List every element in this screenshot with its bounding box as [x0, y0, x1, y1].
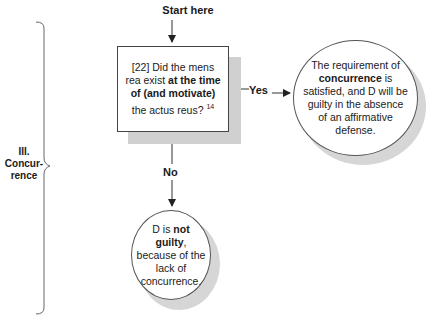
footnote-ref: 14	[206, 103, 214, 110]
yes-label: Yes	[249, 84, 268, 96]
question-box: [22] Did the mens rea exist at the time …	[117, 46, 229, 132]
no-label: No	[163, 166, 178, 178]
outcome-yes-circle: The requirement of concurrence is satisf…	[293, 40, 418, 156]
outcome-no-circle: D is not guilty, because of the lack of …	[131, 210, 211, 300]
